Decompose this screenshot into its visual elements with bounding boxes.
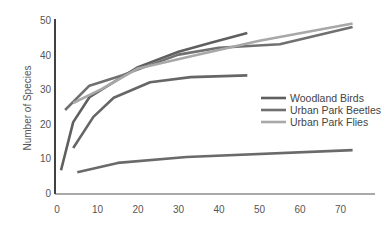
legend: Woodland BirdsUrban Park BeetlesUrban Pa… (261, 92, 381, 128)
y-tick-label: 10 (40, 153, 52, 164)
species-accumulation-chart: 01020304050 010203040506070 Number of Sp… (0, 0, 391, 228)
x-tick-label: 50 (254, 204, 266, 215)
y-axis-label: Number of Species (22, 65, 33, 150)
series-line-unlabeled-4 (77, 150, 352, 172)
y-tick-label: 50 (40, 15, 52, 26)
x-tick-label: 70 (335, 204, 347, 215)
x-tick-label: 10 (92, 204, 104, 215)
x-axis-ticks: 010203040506070 (54, 204, 346, 215)
y-tick-label: 30 (40, 84, 52, 95)
y-axis-ticks: 01020304050 (40, 15, 52, 199)
legend-label: Urban Park Beetles (290, 104, 381, 116)
legend-label: Urban Park Flies (290, 116, 368, 128)
series-line-woodland-birds (61, 33, 247, 170)
x-tick-label: 20 (132, 204, 144, 215)
series-line-unlabeled-3 (73, 75, 247, 148)
y-tick-label: 20 (40, 119, 52, 130)
y-tick-label: 40 (40, 50, 52, 61)
y-tick-label: 0 (45, 188, 51, 199)
x-tick-label: 60 (294, 204, 306, 215)
x-tick-label: 0 (54, 204, 60, 215)
legend-label: Woodland Birds (290, 92, 364, 104)
x-tick-label: 30 (173, 204, 185, 215)
x-tick-label: 40 (213, 204, 225, 215)
